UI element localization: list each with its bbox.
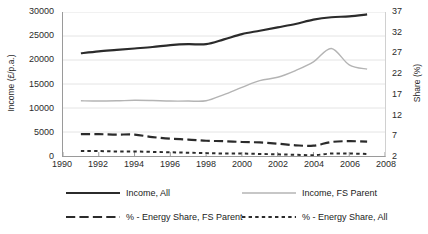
y-axis-left-tick-label: 30000 [16,7,54,16]
x-axis-ticks: 1990199219941996199820002002200420062008 [62,160,386,176]
y-axis-left-tick-label: 15000 [16,80,54,89]
series-line-3 [81,151,367,155]
series-line-0 [81,14,367,53]
y-axis-left-tick-label: 5000 [16,128,54,137]
x-axis-tick-label: 2000 [232,160,252,169]
legend-label: % - Energy Share, FS Parent [126,212,243,222]
x-axis-tick-label: 1990 [52,160,72,169]
y-axis-left-ticks: 050001000015000200002500030000 [16,12,56,157]
legend-label: Income, FS Parent [302,188,377,198]
y-axis-left-tick-label: 25000 [16,31,54,40]
legend-item[interactable]: % - Energy Share, All [240,210,388,224]
x-axis-tick-label: 1992 [88,160,108,169]
y-axis-left-tick-label: 20000 [16,55,54,64]
x-axis-tick-label: 1998 [196,160,216,169]
x-axis-tick-label: 2008 [376,160,396,169]
y-axis-left-title: Income (£/p.a.) [6,28,16,138]
legend-item[interactable]: Income, FS Parent [240,186,377,200]
chart-container: Income (£/p.a.) Share (%) 05000100001500… [0,0,428,234]
legend-item[interactable]: Income, All [64,186,170,200]
x-axis-tick-label: 1996 [160,160,180,169]
chart-legend: Income, AllIncome, FS Parent% - Energy S… [40,186,400,232]
plot-svg [63,12,385,156]
y-axis-right-tick-label: 7 [392,131,397,140]
legend-label: % - Energy Share, All [302,212,388,222]
legend-swatch [240,188,298,198]
legend-swatch [240,212,298,222]
y-axis-right-tick-label: 17 [392,90,402,99]
x-axis-tick-label: 2002 [268,160,288,169]
plot-area [62,12,386,157]
y-axis-right-tick-label: 27 [392,48,402,57]
legend-label: Income, All [126,188,170,198]
y-axis-right-tick-label: 32 [392,28,402,37]
y-axis-right-tick-label: 12 [392,111,402,120]
x-axis-tick-label: 2006 [340,160,360,169]
y-axis-left-tick-label: 0 [16,152,54,161]
x-axis-tick-label: 1994 [124,160,144,169]
y-axis-right-tick-label: 37 [392,7,402,16]
legend-swatch [64,212,122,222]
y-axis-right-ticks: 27121722273237 [390,12,428,157]
y-axis-left-tick-label: 10000 [16,104,54,113]
legend-item[interactable]: % - Energy Share, FS Parent [64,210,243,224]
series-line-1 [81,48,367,101]
legend-swatch [64,188,122,198]
x-axis-tick-label: 2004 [304,160,324,169]
y-axis-right-tick-label: 22 [392,69,402,78]
series-line-2 [81,134,367,146]
